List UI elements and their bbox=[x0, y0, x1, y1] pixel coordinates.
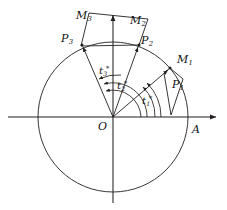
label-t3-star: t3* bbox=[99, 65, 109, 77]
ray-op3 bbox=[83, 47, 113, 117]
label-origin: O bbox=[98, 121, 107, 132]
label-p2: P2 bbox=[141, 35, 153, 48]
geometry-figure bbox=[0, 0, 227, 210]
label-m3: M3 bbox=[76, 10, 92, 23]
label-p1: P1 bbox=[172, 79, 184, 92]
label-m1: M1 bbox=[177, 54, 193, 67]
point-p1 bbox=[169, 67, 172, 70]
label-axis-a: A bbox=[192, 124, 200, 135]
point-p3 bbox=[81, 44, 84, 47]
label-m2: M2 bbox=[130, 15, 146, 28]
label-t2-star: t2* bbox=[117, 80, 127, 92]
label-t1-star: t1* bbox=[142, 95, 152, 107]
label-p3: P3 bbox=[61, 33, 73, 46]
figure-canvas: M3 M2 M1 P3 P2 P1 t3* t2* t1* O A bbox=[0, 0, 227, 210]
